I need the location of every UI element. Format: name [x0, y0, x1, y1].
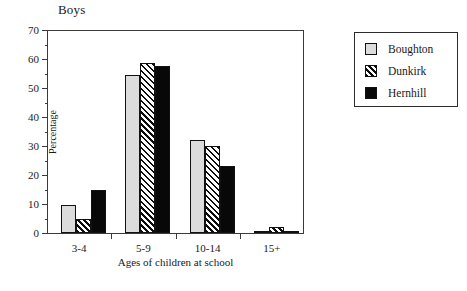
x-axis-title: Ages of children at school [47, 256, 304, 268]
bar-group [125, 31, 170, 233]
chart-title: Boys [58, 2, 86, 18]
hatch-pattern [206, 147, 219, 232]
y-tick-minor [45, 132, 49, 133]
x-tick-label: 15+ [263, 242, 280, 254]
y-tick-minor [45, 103, 49, 104]
y-tick-major [42, 146, 48, 147]
hatch-pattern [141, 64, 154, 232]
y-tick-label: 20 [28, 170, 39, 181]
y-tick-major [42, 117, 48, 118]
bar [140, 63, 155, 233]
hatch-pattern [270, 228, 283, 232]
bar [205, 146, 220, 233]
y-tick-label: 0 [34, 228, 40, 239]
y-tick-major [42, 175, 48, 176]
bar [190, 140, 205, 233]
legend-item[interactable]: Boughton [365, 42, 433, 56]
y-tick-label: 70 [28, 25, 39, 36]
bar [125, 75, 140, 233]
legend-swatch-icon [365, 65, 377, 77]
y-tick-major [42, 204, 48, 205]
y-tick-label: 10 [28, 199, 39, 210]
y-tick-label: 50 [28, 83, 39, 94]
x-tick [240, 233, 241, 239]
legend-item[interactable]: Hernhill [365, 86, 426, 100]
bar [61, 205, 76, 233]
bar-group [190, 31, 235, 233]
x-tick-label: 3-4 [72, 242, 87, 254]
chart-legend: BoughtonDunkirkHernhill [354, 32, 458, 107]
legend-label: Dunkirk [388, 65, 426, 77]
x-tick-label: 10-14 [195, 242, 221, 254]
y-tick-label: 60 [28, 54, 39, 65]
y-tick-label: 30 [28, 141, 39, 152]
y-tick-minor [45, 74, 49, 75]
bar [155, 66, 170, 233]
x-tick [111, 233, 112, 239]
x-axis: 3-45-910-1415+ [47, 233, 304, 234]
bar [220, 166, 235, 233]
y-tick-minor [45, 219, 49, 220]
bar-group [254, 31, 299, 233]
y-tick-label: 40 [28, 112, 39, 123]
y-axis: Percentage 010203040506070 [47, 30, 48, 233]
y-axis-title: Percentage [47, 110, 58, 154]
y-tick-major [42, 59, 48, 60]
hatch-pattern [366, 66, 376, 76]
plot-area [47, 30, 304, 233]
y-tick-major [42, 30, 48, 31]
bar-group [61, 31, 106, 233]
hatch-pattern [77, 220, 90, 233]
bars-layer [47, 31, 303, 233]
y-tick-minor [45, 161, 49, 162]
legend-label: Hernhill [388, 87, 426, 99]
bar [91, 190, 106, 234]
y-tick-minor [45, 45, 49, 46]
x-tick-label: 5-9 [136, 242, 151, 254]
y-tick-major [42, 88, 48, 89]
legend-swatch-icon [365, 43, 377, 55]
legend-item[interactable]: Dunkirk [365, 64, 426, 78]
legend-swatch-icon [365, 87, 377, 99]
bar-chart: Boys Percentage 010203040506070 3-45-910… [0, 0, 467, 291]
legend-label: Boughton [388, 43, 433, 55]
y-tick-minor [45, 190, 49, 191]
x-tick [176, 233, 177, 239]
bar [76, 219, 91, 234]
